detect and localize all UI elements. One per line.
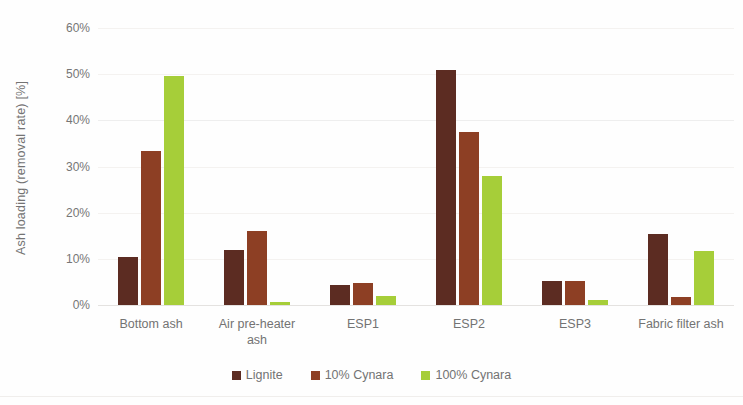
legend-swatch-icon (311, 371, 320, 380)
bar[interactable] (542, 281, 562, 305)
y-axis-tick-0: 0% (44, 299, 90, 311)
x-axis-label: ESP1 (310, 310, 416, 362)
bar[interactable] (459, 132, 479, 305)
x-axis-label-line: Bottom ash (98, 316, 204, 332)
bar[interactable] (164, 76, 184, 305)
bars (416, 28, 522, 305)
x-axis-label-line: Fabric filter ash (628, 316, 734, 332)
bar[interactable] (118, 257, 138, 305)
y-axis-tick-60: 60% (44, 22, 90, 34)
bar[interactable] (247, 231, 267, 305)
bar-group (416, 28, 522, 305)
y-axis-tick-50: 50% (44, 68, 90, 80)
y-axis-tick-10: 10% (44, 253, 90, 265)
legend-label: Lignite (246, 368, 283, 382)
bar-group (628, 28, 734, 305)
x-axis-label-line: ESP1 (310, 316, 416, 332)
bar[interactable] (141, 151, 161, 305)
legend-item[interactable]: 100% Cynara (421, 368, 511, 382)
x-axis-label-line: ash (204, 332, 310, 348)
x-axis-tick-labels: Bottom ashAir pre-heaterashESP1ESP2ESP3F… (98, 310, 734, 362)
x-axis-label-line: ESP2 (416, 316, 522, 332)
bar[interactable] (353, 283, 373, 305)
x-axis-label: ESP2 (416, 310, 522, 362)
bar-group (204, 28, 310, 305)
x-axis-label-line: Air pre-heater (204, 316, 310, 332)
scan-artifact-line (0, 396, 743, 397)
bars (522, 28, 628, 305)
x-axis-line (98, 305, 734, 306)
bar[interactable] (694, 251, 714, 305)
bars (310, 28, 416, 305)
bars (628, 28, 734, 305)
y-axis-tick-30: 30% (44, 161, 90, 173)
bar-group (98, 28, 204, 305)
legend-swatch-icon (421, 371, 430, 380)
x-axis-label: Air pre-heaterash (204, 310, 310, 362)
bar[interactable] (482, 176, 502, 305)
legend-label: 100% Cynara (435, 368, 511, 382)
y-axis-tick-40: 40% (44, 114, 90, 126)
legend-label: 10% Cynara (325, 368, 394, 382)
bar[interactable] (565, 281, 585, 305)
bar[interactable] (376, 296, 396, 305)
chart-legend: Lignite10% Cynara100% Cynara (0, 368, 743, 382)
y-axis-title: Ash loading (removal rate) [%] (14, 18, 40, 318)
y-axis-tick-20: 20% (44, 207, 90, 219)
x-axis-label: Fabric filter ash (628, 310, 734, 362)
y-axis-tick-labels: 60%50%40%30%20%10%0% (44, 0, 90, 405)
bar-group (310, 28, 416, 305)
bar[interactable] (330, 285, 350, 305)
x-axis-label-line: ESP3 (522, 316, 628, 332)
bar[interactable] (671, 297, 691, 305)
bar-group (522, 28, 628, 305)
bars (204, 28, 310, 305)
bar-groups (98, 28, 734, 305)
legend-swatch-icon (232, 371, 241, 380)
x-axis-label: ESP3 (522, 310, 628, 362)
bar[interactable] (436, 70, 456, 305)
plot-area (98, 28, 734, 305)
legend-item[interactable]: 10% Cynara (311, 368, 394, 382)
x-axis-label: Bottom ash (98, 310, 204, 362)
bar[interactable] (648, 234, 668, 305)
bar-chart: Ash loading (removal rate) [%] 60%50%40%… (0, 0, 743, 405)
bars (98, 28, 204, 305)
legend-item[interactable]: Lignite (232, 368, 283, 382)
bar[interactable] (224, 250, 244, 305)
